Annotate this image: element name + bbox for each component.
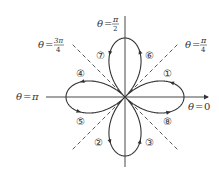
svg-text:θ: θ — [185, 39, 191, 50]
svg-text:4: 4 — [56, 46, 61, 54]
svg-text:=: = — [195, 101, 203, 112]
label-theta-3pi-4: θ = 3π 4 — [38, 37, 64, 54]
svg-text:=: = — [23, 91, 31, 102]
loop-label-1: ① — [163, 68, 172, 79]
svg-text:=: = — [192, 39, 200, 50]
label-theta-pi-4: θ = π 4 — [185, 36, 207, 54]
loop-label-3: ③ — [145, 137, 154, 148]
svg-text:π: π — [112, 15, 119, 24]
label-theta-pi-2: θ = π 2 — [97, 15, 119, 33]
svg-text:0: 0 — [204, 101, 210, 112]
loop-label-5: ⑤ — [76, 116, 85, 127]
svg-text:4: 4 — [201, 46, 206, 54]
svg-text:θ: θ — [97, 18, 103, 29]
loop-label-7: ⑦ — [96, 50, 105, 61]
loop-label-2: ② — [94, 137, 103, 148]
svg-text:3π: 3π — [54, 37, 63, 45]
svg-text:π: π — [31, 91, 39, 102]
svg-text:π: π — [200, 36, 207, 45]
direction-arrow-icon — [137, 49, 142, 55]
svg-text:2: 2 — [113, 25, 117, 33]
label-theta-0: θ = 0 — [188, 101, 210, 112]
polar-rose-diagram: θ = π 2 θ = 3π 4 θ = π 4 θ = π θ = 0 ① ②… — [0, 0, 219, 179]
loop-label-4: ④ — [76, 68, 85, 79]
label-theta-pi: θ = π — [16, 91, 39, 102]
loop-label-6: ⑥ — [145, 50, 154, 61]
svg-text:θ: θ — [38, 39, 44, 50]
direction-arrow-icon — [169, 80, 175, 85]
direction-arrow-icon — [107, 139, 112, 144]
svg-text:=: = — [104, 18, 112, 29]
loop-label-8: ⑧ — [163, 116, 172, 127]
svg-text:θ: θ — [188, 101, 194, 112]
svg-text:θ: θ — [16, 91, 22, 102]
svg-text:=: = — [45, 39, 53, 50]
